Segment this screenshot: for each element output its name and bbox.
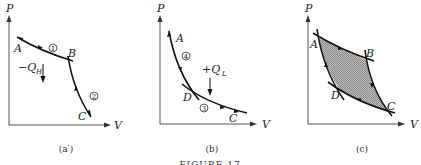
p-axis-label: P [156,2,165,15]
curve-bc [68,56,91,117]
point-d: D [330,89,340,102]
p-axis-label: P [5,2,14,15]
curve-ad [169,31,199,100]
v-axis-arrow-icon [104,123,111,128]
v-axis-label: V [410,118,419,131]
step-number-4: 4 [184,53,189,61]
step-number-1: 1 [51,45,55,53]
p-axis-arrow-icon [158,15,163,22]
figure-caption: FIGURE 17 [179,160,240,165]
point-a: A [13,42,22,55]
point-b: B [67,47,76,60]
heat-arrow-down-icon [41,76,46,83]
arrow-ab-icon [38,45,43,49]
point-a: A [175,32,184,45]
step-number-2: 2 [92,93,96,101]
panel-caption: (c) [356,144,368,154]
heat-label-qh: −Q [18,61,36,74]
p-axis-label: P [304,2,313,15]
heat-subscript-h: H [35,68,43,76]
v-axis-arrow-icon [250,122,257,127]
heat-subscript-l: L [221,70,227,78]
point-a: A [309,38,318,51]
curve-ab [17,37,73,61]
panel-b: P V A D C 4 3 +Q L (b) [156,2,271,154]
arrow-a-icon [167,31,171,37]
point-b: B [365,47,374,60]
v-axis-label: V [262,118,271,131]
point-c: C [387,100,396,113]
heat-arrow-down-icon [208,89,213,96]
panel-caption: (b) [206,144,219,154]
panel-a-prime: P V A B C 1 2 −Q H (a′) [5,2,123,154]
heat-label-ql: +Q [202,63,220,76]
p-axis-arrow-icon [306,15,311,22]
point-c: C [78,110,87,123]
v-axis-label: V [114,119,123,132]
figure-17: P V A B C 1 2 −Q H (a′) P V [0,0,421,165]
p-axis-arrow-icon [7,15,12,22]
panel-c: P V A B C D (c) [304,2,419,154]
point-d: D [182,91,192,104]
panel-caption: (a′) [59,144,73,154]
step-number-3: 3 [202,105,206,113]
v-axis-arrow-icon [398,122,405,127]
point-c: C [229,112,238,125]
